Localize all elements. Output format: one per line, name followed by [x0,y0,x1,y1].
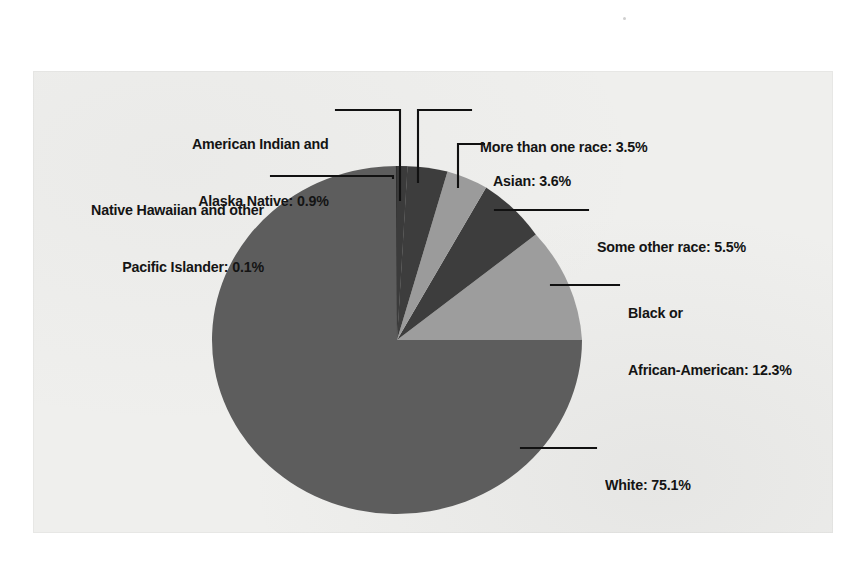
pie-label-line-1: Native Hawaiian and other [91,200,264,219]
pie-label-line-1: Some other race: 5.5% [597,237,746,256]
pie-label-line-1: White: 75.1% [605,475,691,494]
pie-label-white[interactable]: White: 75.1% [605,437,691,532]
pie-label-line-1: American Indian and [192,134,329,153]
scanned-page: American Indian and Alaska Native: 0.9% … [0,0,854,561]
pie-label-black-or-african-american[interactable]: Black or African-American: 12.3% [628,265,792,417]
pie-label-line-1: Black or [628,303,792,322]
pie-label-line-2: African-American: 12.3% [628,360,792,379]
pie-label-asian[interactable]: Asian: 3.6% [493,133,571,228]
pie-label-line-2: Pacific Islander: 0.1% [91,257,264,276]
pie-label-native-hawaiian-and-other-pacific-islander[interactable]: Native Hawaiian and other Pacific Island… [91,162,264,314]
pie-label-line-1: Asian: 3.6% [493,171,571,190]
